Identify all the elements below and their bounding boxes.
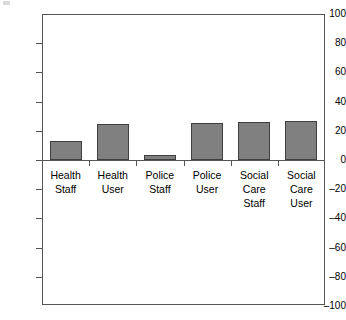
bar: [97, 124, 129, 161]
x-axis-label: SocialCareUser: [278, 168, 325, 210]
y-tick-label: 40: [310, 97, 346, 107]
y-tick-label: –40: [310, 213, 346, 223]
x-axis-label-line: Police: [136, 168, 183, 182]
y-tick-mark: [36, 131, 42, 132]
y-axis: [0, 0, 38, 320]
x-axis-label-line: Police: [184, 168, 231, 182]
x-tick-mark: [136, 161, 137, 166]
y-tick-mark: [36, 43, 42, 44]
x-tick-mark: [89, 161, 90, 166]
y-tick-label: –100: [310, 301, 346, 311]
y-tick-label: –60: [310, 243, 346, 253]
x-axis-label-line: User: [184, 182, 231, 196]
y-tick-label: 60: [310, 67, 346, 77]
x-axis-label: PoliceUser: [184, 168, 231, 196]
y-tick-label: 100: [310, 9, 346, 19]
x-axis-label-line: Health: [89, 168, 136, 182]
x-tick-mark: [278, 161, 279, 166]
x-axis-label-line: Care: [278, 182, 325, 196]
y-tick-mark: [36, 277, 42, 278]
x-axis-label: HealthStaff: [42, 168, 89, 196]
y-tick-mark: [36, 218, 42, 219]
x-axis-label-line: Care: [231, 182, 278, 196]
bar-chart: 100806040200–20–40–60–80–100 HealthStaff…: [0, 0, 346, 320]
bar: [144, 155, 176, 160]
x-axis-label-line: Social: [231, 168, 278, 182]
x-tick-mark: [231, 161, 232, 166]
bar: [50, 141, 82, 160]
y-tick-mark: [36, 248, 42, 249]
x-axis-label-line: Staff: [136, 182, 183, 196]
bar: [191, 123, 223, 160]
x-axis-label: HealthUser: [89, 168, 136, 196]
y-tick-mark: [36, 72, 42, 73]
x-axis-label-line: User: [89, 182, 136, 196]
x-axis-label-line: Staff: [42, 182, 89, 196]
y-tick-label: 80: [310, 38, 346, 48]
x-axis-label-line: Health: [42, 168, 89, 182]
x-axis-label: PoliceStaff: [136, 168, 183, 196]
x-axis-label-line: Social: [278, 168, 325, 182]
y-tick-mark: [36, 160, 42, 161]
x-axis-label-line: User: [278, 196, 325, 210]
bar: [285, 121, 317, 160]
bar: [238, 122, 270, 160]
y-tick-mark: [36, 102, 42, 103]
y-tick-label: –80: [310, 272, 346, 282]
x-tick-mark: [184, 161, 185, 166]
x-axis-label: SocialCareStaff: [231, 168, 278, 210]
x-axis-label-line: Staff: [231, 196, 278, 210]
